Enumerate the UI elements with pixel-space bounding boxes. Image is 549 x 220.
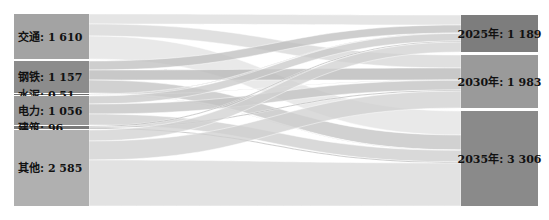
source-node-label-other: 其他: 2 585: [18, 161, 82, 175]
target-node-label-y2035: 2035年: 3 306: [458, 152, 542, 166]
link-other-to-y2035: [89, 160, 461, 206]
link-transport-to-y2025: [89, 14, 461, 25]
source-node-label-steel: 钢铁: 1 157: [18, 70, 82, 84]
target-nodes: 2025年: 1 1892030年: 1 9832035年: 3 306: [458, 15, 542, 206]
sankey-links: [89, 14, 461, 206]
source-nodes: 交通: 1 610钢铁: 1 157水泥: 0.51电力: 1 056建筑: 9…: [14, 14, 89, 206]
target-node-label-y2025: 2025年: 1 189: [458, 27, 542, 41]
sankey-chart: 交通: 1 610钢铁: 1 157水泥: 0.51电力: 1 056建筑: 9…: [0, 0, 549, 220]
target-node-label-y2030: 2030年: 1 983: [458, 75, 542, 89]
source-node-label-power: 电力: 1 056: [18, 104, 83, 118]
source-node-label-transport: 交通: 1 610: [18, 30, 83, 44]
